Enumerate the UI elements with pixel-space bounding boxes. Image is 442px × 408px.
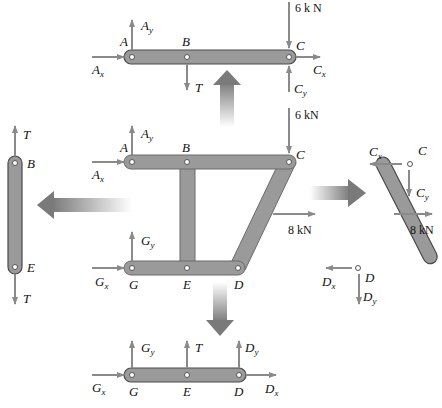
member-abc-fbd: A Ay Ax B T 6 k N C Cx Cy: [91, 1, 326, 98]
svg-text:Dx: Dx: [264, 381, 278, 398]
svg-text:T: T: [23, 127, 31, 142]
svg-text:D: D: [233, 384, 244, 399]
svg-text:D: D: [233, 277, 244, 292]
diagram-canvas: A Ay Ax B T 6 k N C Cx Cy A Ay Ax B: [0, 0, 442, 408]
svg-text:T: T: [195, 80, 203, 95]
svg-text:B: B: [182, 140, 190, 155]
svg-text:C: C: [296, 38, 305, 53]
svg-text:Ay: Ay: [140, 126, 153, 143]
svg-text:D: D: [364, 270, 375, 285]
label-a: A: [119, 34, 128, 49]
svg-text:Ay: Ay: [140, 18, 153, 35]
svg-text:Gy: Gy: [141, 233, 154, 250]
svg-text:C: C: [296, 147, 305, 162]
svg-text:Gx: Gx: [92, 380, 105, 397]
svg-text:T: T: [195, 340, 203, 355]
svg-text:E: E: [182, 277, 191, 292]
transition-arrow-up-icon: [213, 70, 241, 127]
member-be-fbd: T B E T: [8, 126, 35, 306]
svg-text:Cy: Cy: [416, 185, 429, 202]
svg-text:G: G: [129, 277, 139, 292]
svg-text:B: B: [27, 156, 35, 171]
svg-text:A: A: [119, 140, 128, 155]
svg-text:T: T: [23, 291, 31, 306]
load-6kn-frame: 6 kN: [295, 108, 319, 122]
svg-text:Cy: Cy: [294, 81, 307, 98]
svg-text:Ax: Ax: [91, 167, 104, 184]
svg-text:C: C: [418, 143, 427, 158]
svg-text:Dy: Dy: [362, 289, 376, 306]
svg-text:Gx: Gx: [95, 274, 108, 291]
transition-arrow-right-icon: [310, 179, 366, 207]
transition-arrow-down-icon: [206, 282, 234, 336]
svg-text:Gy: Gy: [141, 340, 154, 357]
svg-text:Ax: Ax: [91, 62, 104, 79]
svg-text:Dx: Dx: [321, 274, 335, 291]
svg-text:E: E: [26, 260, 35, 275]
load-6kn-top: 6 k N: [295, 1, 322, 15]
member-cd-fbd: Cx C Cy 8 kN D Dx Dy: [321, 143, 440, 306]
load-8kn-frame: 8 kN: [288, 223, 312, 237]
svg-text:Cx: Cx: [369, 144, 382, 161]
svg-text:B: B: [182, 34, 190, 49]
svg-text:Dy: Dy: [244, 340, 258, 357]
transition-arrow-left-icon: [37, 191, 132, 219]
svg-text:Cx: Cx: [313, 62, 326, 79]
svg-text:G: G: [129, 384, 139, 399]
load-8kn-cd: 8 kN: [410, 223, 434, 237]
svg-text:E: E: [182, 384, 191, 399]
member-ged-fbd: Gy T Dy Gx G E D Dx: [92, 340, 278, 399]
